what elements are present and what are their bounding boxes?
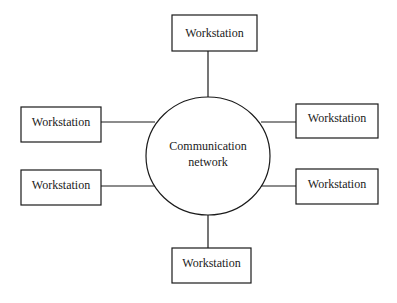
- workstation-node-bottom: Workstation: [172, 248, 251, 283]
- star-network-diagram: Communication network Workstation Workst…: [0, 0, 397, 303]
- workstation-label: Workstation: [185, 26, 243, 40]
- communication-network-hub: Communication network: [146, 97, 270, 215]
- workstation-node-top: Workstation: [172, 15, 257, 51]
- workstation-label: Workstation: [32, 115, 90, 129]
- workstation-label: Workstation: [308, 177, 366, 191]
- workstation-label: Workstation: [182, 256, 240, 270]
- workstation-label: Workstation: [32, 178, 90, 192]
- workstation-node-left-upper: Workstation: [21, 107, 101, 142]
- workstation-node-left-lower: Workstation: [21, 170, 101, 205]
- workstation-label: Workstation: [308, 111, 366, 125]
- workstation-node-right-lower: Workstation: [296, 169, 378, 204]
- workstation-node-right-upper: Workstation: [296, 104, 378, 138]
- hub-label-line-2: network: [188, 155, 227, 169]
- hub-label-line-1: Communication: [169, 139, 246, 153]
